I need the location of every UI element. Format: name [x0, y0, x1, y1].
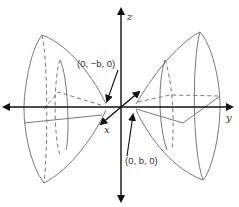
point-label-pos-b: (0, b, 0)	[125, 155, 158, 166]
axes	[4, 9, 232, 201]
pointer-pos-b	[127, 115, 133, 156]
diagram-canvas: z y x (0, −b, 0) (0, b, 0)	[0, 0, 239, 207]
point-label-neg-b: (0, −b, 0)	[77, 58, 115, 69]
hyperboloid-diagram: z y x (0, −b, 0) (0, b, 0)	[0, 0, 239, 207]
x-axis-back	[121, 92, 139, 107]
z-axis-label: z	[126, 11, 133, 22]
x-axis-label: x	[104, 124, 110, 135]
y-axis-label: y	[225, 112, 232, 123]
pointer-neg-b	[107, 70, 118, 101]
